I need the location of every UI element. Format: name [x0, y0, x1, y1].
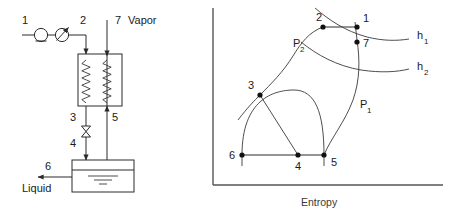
isenthalp-h2-label-base: h: [417, 60, 423, 72]
state-label-6: 6: [229, 149, 235, 161]
isobar-p1-label-sub: 1: [367, 106, 372, 115]
isobar-p2-label-sub: 2: [300, 45, 305, 54]
state-point-3: [257, 92, 262, 97]
process-flow-diagram: 1 2 3 4 5 6 7 Vapor Liquid: [0, 0, 210, 217]
isobar-p1-curve: [324, 22, 359, 155]
chart-axes: [213, 8, 443, 185]
isobar-p2-label: P 2: [293, 37, 305, 54]
saturation-dome-curve: [242, 90, 324, 155]
process-line-3-to-4: [260, 95, 298, 155]
state-point-4: [295, 152, 300, 157]
ts-diagram: 1 2 3 4 5 6 7 P 2 P 1 h 1 h 2 Temp Entro…: [205, 0, 451, 217]
isobar-p2-curve: [238, 27, 323, 120]
stream-2-line: [69, 35, 86, 54]
isenthalp-h1-label: h 1: [417, 29, 429, 46]
flow-label-2: 2: [80, 14, 86, 26]
isenthalp-h1-curve: [315, 8, 409, 40]
isenthalp-h2-label-sub: 2: [424, 68, 429, 77]
state-label-7: 7: [363, 37, 369, 49]
adjustable-device-icon: [55, 28, 68, 42]
bowtie-valve-icon: [82, 126, 91, 137]
state-label-3: 3: [248, 79, 254, 91]
isenthalp-h1-label-base: h: [417, 29, 423, 41]
state-point-2: [320, 24, 325, 29]
pump-icon: [34, 28, 47, 41]
state-label-5: 5: [331, 156, 337, 168]
isenthalp-h1-label-sub: 1: [424, 37, 429, 46]
flow-label-3: 3: [70, 111, 76, 123]
x-axis-label: Entropy: [301, 196, 338, 208]
state-point-7: [354, 39, 359, 44]
heat-exchanger-coil-left: [82, 60, 90, 103]
state-label-1: 1: [363, 12, 369, 24]
vapor-label: Vapor: [128, 14, 157, 26]
state-point-5: [321, 152, 326, 157]
flow-label-7: 7: [115, 14, 121, 26]
figure-canvas: 1 2 3 4 5 6 7 Vapor Liquid: [0, 0, 451, 217]
isobar-p1-label: P 1: [360, 98, 372, 115]
flow-label-5: 5: [112, 111, 118, 123]
isenthalp-h2-label: h 2: [417, 60, 429, 77]
flow-label-6: 6: [45, 160, 51, 172]
state-point-1: [354, 24, 359, 29]
flow-label-1: 1: [22, 14, 28, 26]
state-label-4: 4: [295, 160, 301, 172]
state-point-6: [239, 152, 244, 157]
flow-label-4: 4: [70, 137, 76, 149]
liquid-label: Liquid: [22, 182, 51, 194]
liquid-tank-icon: [72, 160, 134, 192]
state-label-2: 2: [316, 11, 322, 23]
isenthalp-h2-curve: [301, 42, 409, 72]
